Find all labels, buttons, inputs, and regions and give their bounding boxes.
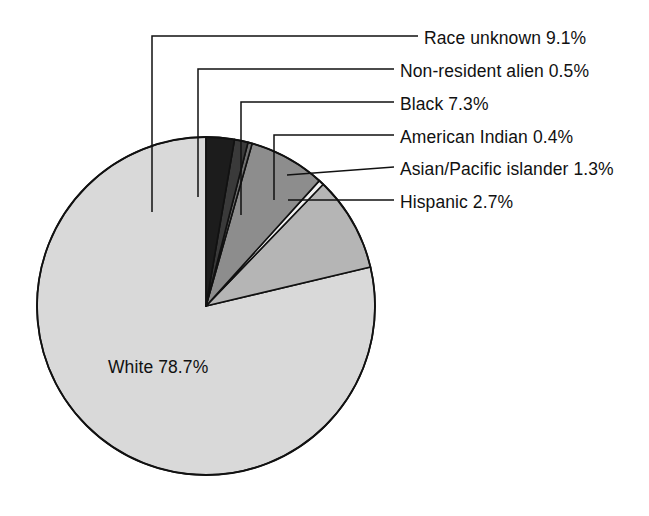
slice-label-hispanic: Hispanic 2.7% xyxy=(400,192,513,212)
slice-label-white: White 78.7% xyxy=(108,357,208,378)
pie-slices-group xyxy=(37,137,375,475)
slice-label-black: Black 7.3% xyxy=(400,94,489,114)
slice-label-non-resident-alien: Non-resident alien 0.5% xyxy=(400,61,589,81)
slice-label-race-unknown: Race unknown 9.1% xyxy=(424,28,586,48)
slice-label-american-indian: American Indian 0.4% xyxy=(400,127,573,147)
pie-chart-figure: Race unknown 9.1% Non-resident alien 0.5… xyxy=(0,0,649,516)
slice-label-asian-pacific-islander: Asian/Pacific islander 1.3% xyxy=(400,159,614,179)
